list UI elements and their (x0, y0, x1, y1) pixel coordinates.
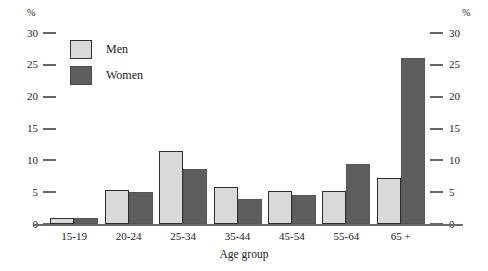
y-tick-label: 5 (22, 187, 38, 198)
y-axis-unit-right: % (462, 8, 470, 18)
y-tick-mark-icon (430, 32, 443, 34)
y-tick-label: 20 (449, 91, 465, 102)
bar-men-55-64 (322, 191, 346, 224)
x-tick-label: 25-34 (153, 230, 213, 242)
y-tick-right-10: 10 (430, 154, 474, 166)
y-tick-label: 20 (22, 91, 38, 102)
y-tick-right-5: 5 (430, 186, 474, 198)
bar-group (377, 33, 425, 224)
bar-men-45-54 (268, 191, 292, 224)
bar-women-55-64 (346, 164, 370, 224)
x-axis-line (33, 224, 463, 226)
x-axis-title: Age group (0, 248, 488, 260)
y-tick-mark-icon (430, 128, 443, 130)
y-tick-label: 15 (22, 123, 38, 134)
x-tick-label: 65 + (371, 230, 431, 242)
y-tick-label: 30 (22, 28, 38, 39)
y-tick-right-20: 20 (430, 91, 474, 103)
y-tick-mark-icon (430, 191, 443, 193)
x-tick-label: 20-24 (99, 230, 159, 242)
bar-women-35-44 (238, 199, 262, 224)
y-tick-label: 30 (449, 28, 465, 39)
bar-group (214, 33, 262, 224)
bar-group (50, 33, 98, 224)
bar-women-20-24 (129, 192, 153, 224)
y-tick-label: 10 (22, 155, 38, 166)
y-tick-label: 25 (22, 59, 38, 70)
bar-men-20-24 (105, 190, 129, 224)
bar-men-25-34 (159, 151, 183, 224)
x-tick-label: 55-64 (316, 230, 376, 242)
bar-women-25-34 (183, 169, 207, 224)
y-tick-mark-icon (430, 159, 443, 161)
y-tick-label: 25 (449, 59, 465, 70)
y-tick-right-15: 15 (430, 123, 474, 135)
bar-women-65 (401, 58, 425, 224)
x-tick-label: 45-54 (262, 230, 322, 242)
bar-group (322, 33, 370, 224)
y-axis-unit-left: % (27, 8, 35, 18)
y-tick-right-25: 25 (430, 59, 474, 71)
bar-men-35-44 (214, 187, 238, 224)
y-tick-mark-icon (430, 64, 443, 66)
x-tick-label: 15-19 (44, 230, 104, 242)
bar-chart: % % 302520151050 302520151050 Men Women … (0, 0, 488, 271)
y-tick-label: 10 (449, 155, 465, 166)
y-tick-label: 5 (449, 187, 465, 198)
bar-group (159, 33, 207, 224)
bar-women-45-54 (292, 195, 316, 224)
bar-group (268, 33, 316, 224)
x-tick-label: 35-44 (208, 230, 268, 242)
y-tick-right-30: 30 (430, 27, 474, 39)
plot-area (47, 33, 428, 224)
y-tick-label: 15 (449, 123, 465, 134)
bar-men-65 (377, 178, 401, 224)
y-tick-mark-icon (430, 96, 443, 98)
bar-group (105, 33, 153, 224)
